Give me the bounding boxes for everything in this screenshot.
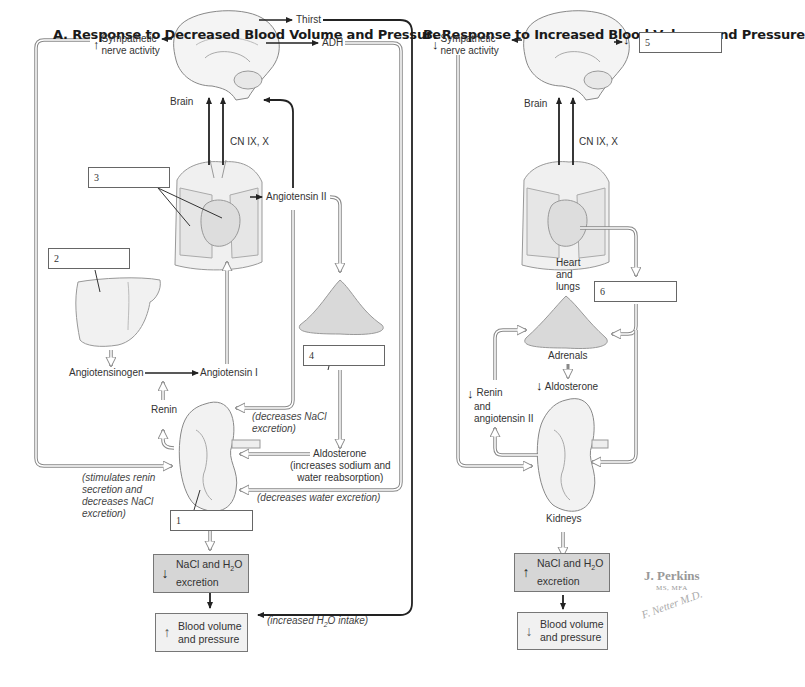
nacl-excretion-decrease-box: ↓ NaCl and H2O excretion: [153, 554, 249, 593]
angiotensin-ii-label: Angiotensin II: [266, 191, 327, 203]
cn-a-label: CN IX, X: [230, 136, 269, 148]
down-arrow-icon: ↓: [518, 625, 540, 638]
decreases-water-note: (decreases water excretion): [257, 492, 380, 504]
brain-a-illustration: [174, 11, 280, 100]
heart-lungs-label: Heart and lungs: [556, 257, 580, 293]
aldosterone-note: (increases sodium and water reabsorption…: [290, 460, 391, 484]
aldosterone-b-label: ↓ Aldosterone: [536, 380, 598, 393]
down-arrow-icon: ↓: [536, 378, 543, 393]
up-arrow-icon: ↑: [515, 566, 537, 579]
down-arrow-icon: ↓: [154, 567, 176, 580]
brain-a-label: Brain: [170, 96, 193, 108]
answer-box-4[interactable]: 4: [303, 345, 385, 366]
brain-b-label: Brain: [524, 98, 547, 110]
renin-angiotensin-b-label: ↓ Renin and angiotensin II: [467, 387, 534, 425]
down-arrow-icon: ↓: [432, 33, 439, 57]
adrenals-label: Adrenals: [548, 350, 587, 362]
kidneys-label: Kidneys: [546, 513, 582, 525]
liver-illustration: [76, 278, 161, 347]
angiotensinogen-label: Angiotensinogen: [69, 367, 144, 379]
up-arrow-icon: ↑: [93, 33, 100, 57]
answer-box-6[interactable]: 6: [594, 281, 677, 302]
blood-volume-decrease-box: ↓ Blood volume and pressure: [517, 612, 608, 650]
answer-box-5[interactable]: 5: [639, 32, 722, 53]
cn-b-label: CN IX, X: [579, 136, 618, 148]
signature-block: J. Perkins MS, MFA F. Netter M.D.: [640, 568, 704, 610]
adrenal-a-illustration: [299, 280, 383, 335]
answer-box-2[interactable]: 2: [48, 248, 130, 269]
heart-lungs-a-illustration: [175, 160, 262, 270]
increased-water-intake-note: (increased H2O intake): [267, 615, 368, 631]
stimulates-renin-note: (stimulates renin secretion and decrease…: [82, 472, 155, 520]
sympathetic-a-label: ↑ Sympathetic nerve activity: [93, 33, 151, 57]
adh-label: ADH: [322, 37, 343, 49]
thirst-label: Thirst: [296, 14, 321, 26]
aldosterone-label: Aldosterone: [313, 448, 366, 460]
down-arrow-icon: ↓: [623, 34, 630, 46]
heart-lungs-b-illustration: [522, 162, 609, 270]
decreases-nacl-note: (decreases NaCl excretion): [252, 411, 326, 435]
angiotensin-i-label: Angiotensin I: [200, 367, 258, 379]
kidney-a-illustration: [179, 402, 260, 511]
answer-box-3[interactable]: 3: [88, 167, 170, 188]
adrenal-b-illustration: [525, 296, 607, 349]
sympathetic-b-label: ↓ Sympathetic nerve activity: [432, 33, 490, 57]
renin-label: Renin: [151, 404, 177, 416]
down-arrow-icon: ↓: [467, 387, 474, 401]
answer-box-1[interactable]: 1: [170, 510, 253, 531]
brain-b-illustration: [524, 11, 630, 100]
nacl-excretion-increase-box: ↑ NaCl and H2O excretion: [514, 553, 610, 592]
blood-volume-increase-box: ↑ Blood volume and pressure: [155, 613, 248, 652]
artist-name: J. Perkins: [640, 568, 704, 584]
up-arrow-icon: ↑: [156, 626, 178, 639]
kidney-b-illustration: [537, 399, 608, 512]
